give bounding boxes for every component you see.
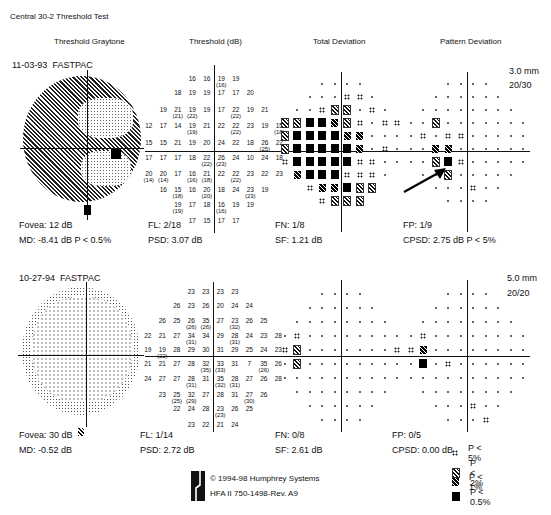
deviation-point (482, 387, 490, 396)
deviation-point (368, 373, 376, 382)
deviation-point (494, 317, 502, 326)
deviation-point (393, 359, 401, 368)
deviation-point (281, 131, 289, 140)
test1-date-strategy: 11-03-93 FASTPAC (12, 60, 93, 71)
threshold-value: 25 (242, 346, 256, 353)
test2-date-strategy: 10-27-94 FASTPAC (19, 273, 100, 284)
deviation-point (482, 92, 490, 101)
col-header-graytone: Threshold Graytone (54, 37, 125, 47)
deviation-point (343, 331, 351, 340)
deviation-point (494, 144, 502, 153)
deviation-point (469, 118, 477, 127)
deviation-point (306, 373, 314, 382)
threshold-repeat-value: (31) (182, 382, 200, 388)
threshold-value: 22 (229, 122, 243, 129)
threshold-repeat-value: (26) (255, 367, 273, 373)
threshold-value: 19 (229, 75, 243, 82)
threshold-value: 22 (214, 122, 228, 129)
deviation-point (457, 118, 465, 127)
deviation-point (331, 131, 339, 140)
deviation-point (318, 105, 326, 114)
threshold-value: 25 (170, 391, 184, 398)
test2-threshold-vaxis (213, 282, 214, 432)
threshold-value: 22 (229, 139, 243, 146)
deviation-point (343, 345, 351, 354)
deviation-point (407, 373, 415, 382)
threshold-value: 19 (243, 106, 257, 113)
test2-sf: SF: 2.61 dB (275, 445, 323, 456)
deviation-point (318, 79, 326, 88)
deviation-point (356, 401, 364, 410)
threshold-repeat-value: (22) (183, 113, 201, 119)
deviation-point (494, 387, 502, 396)
threshold-value: 16 (200, 75, 214, 82)
deviation-point (356, 303, 364, 312)
threshold-repeat-value: (19) (169, 208, 187, 214)
threshold-value: 26 (199, 302, 213, 309)
deviation-point (318, 196, 326, 205)
deviation-point (457, 387, 465, 396)
threshold-value: 19 (229, 201, 243, 208)
test1-total-vaxis (341, 72, 342, 232)
deviation-point (318, 183, 326, 192)
deviation-point (281, 157, 289, 166)
deviation-point (356, 157, 364, 166)
deviation-point (519, 157, 527, 166)
threshold-value: 21 (171, 106, 185, 113)
deviation-point (356, 144, 364, 153)
deviation-point (469, 131, 477, 140)
deviation-point (343, 144, 351, 153)
deviation-point (444, 359, 452, 368)
deviation-point (519, 131, 527, 140)
deviation-point (419, 387, 427, 396)
deviation-point (306, 105, 314, 114)
deviation-point (507, 359, 515, 368)
deviation-point (381, 345, 389, 354)
deviation-point (331, 345, 339, 354)
deviation-point (432, 331, 440, 340)
threshold-value: 19 (200, 106, 214, 113)
threshold-value: 15 (142, 139, 156, 146)
threshold-value: 26 (258, 139, 272, 146)
threshold-value: 32 (184, 391, 198, 398)
test2-fl: FL: 1/14 (140, 430, 173, 441)
deviation-point (469, 79, 477, 88)
threshold-value: 26 (257, 375, 271, 382)
threshold-repeat-value: (22) (227, 177, 245, 183)
deviation-point (331, 183, 339, 192)
threshold-value: 23 (199, 288, 213, 295)
threshold-value: 19 (185, 106, 199, 113)
threshold-value: 23 (184, 288, 198, 295)
threshold-repeat-value: (23) (241, 193, 259, 199)
deviation-point (368, 118, 376, 127)
threshold-value: 23 (243, 170, 257, 177)
threshold-value: 17 (214, 217, 228, 224)
threshold-value: 28 (170, 346, 184, 353)
threshold-value: 34 (184, 332, 198, 339)
deviation-point (469, 157, 477, 166)
deviation-point (368, 105, 376, 114)
threshold-value: 17 (171, 154, 185, 161)
deviation-point (318, 345, 326, 354)
deviation-point (457, 131, 465, 140)
threshold-repeat-value: (18) (169, 193, 187, 199)
deviation-point (482, 331, 490, 340)
threshold-value: 28 (228, 332, 242, 339)
deviation-point (306, 387, 314, 396)
threshold-value: 26 (214, 154, 228, 161)
deviation-point (469, 359, 477, 368)
deviation-point (507, 170, 515, 179)
deviation-point (306, 401, 314, 410)
threshold-value: 27 (155, 375, 169, 382)
threshold-value: 24 (257, 346, 271, 353)
deviation-point (419, 359, 427, 368)
deviation-point (293, 359, 301, 368)
deviation-point (444, 373, 452, 382)
test1-md: MD: -8.41 dB P < 0.5% (19, 235, 111, 246)
deviation-point (444, 144, 452, 153)
deviation-point (393, 131, 401, 140)
deviation-point (482, 345, 490, 354)
deviation-point (331, 105, 339, 114)
deviation-point (331, 118, 339, 127)
significance-symbol-icon (452, 478, 459, 487)
